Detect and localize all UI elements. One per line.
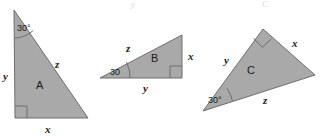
triangle-c-side-z-label: z [262, 94, 268, 106]
triangle-b-side-y-label: y [141, 82, 148, 94]
triangle-c-angle-label: 30° [208, 95, 222, 105]
triangle-c-side-y-label: y [222, 54, 229, 66]
triangle-b-group: 30 B z x y [100, 35, 194, 94]
triangle-c-side-x-label: x [291, 37, 298, 49]
triangle-a-name-label: A [36, 79, 44, 91]
triangle-c-group: 30° C y x z [203, 29, 315, 111]
triangle-a-group: 30° A y z x [1, 10, 88, 135]
triangle-a-side-z-label: z [54, 58, 60, 70]
geometry-figure: y C 30° A y z x 30 B z x [0, 0, 321, 136]
triangle-b-angle-label: 30 [110, 67, 120, 77]
triangle-b-name-label: B [151, 52, 158, 64]
triangles-diagram: y C 30° A y z x 30 B z x [0, 0, 321, 136]
triangle-a-side-x-label: x [44, 123, 51, 135]
triangle-b-side-x-label: x [187, 50, 194, 62]
triangle-b-side-z-label: z [125, 42, 131, 54]
triangle-a-angle-label: 30° [17, 23, 31, 33]
top-edge-artifact-2: C [262, 0, 269, 9]
triangle-a-side-y-label: y [1, 70, 8, 82]
triangle-c-name-label: C [247, 64, 255, 76]
top-edge-artifact-1: y [130, 0, 135, 9]
